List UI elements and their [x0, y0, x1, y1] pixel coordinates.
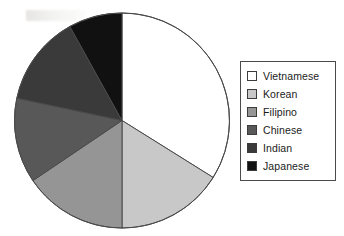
pie-chart-area	[0, 0, 240, 236]
legend-label-vietnamese: Vietnamese	[263, 70, 319, 82]
legend-swatch-vietnamese	[247, 71, 257, 81]
pie-svg	[0, 0, 240, 236]
legend-label-filipino: Filipino	[263, 106, 297, 118]
legend-item-chinese[interactable]: Chinese	[247, 121, 330, 139]
legend-swatch-chinese	[247, 125, 257, 135]
legend-item-korean[interactable]: Korean	[247, 85, 330, 103]
legend-item-filipino[interactable]: Filipino	[247, 103, 330, 121]
legend-label-korean: Korean	[263, 88, 297, 100]
pie-slice-group	[15, 13, 230, 228]
legend-item-indian[interactable]: Indian	[247, 139, 330, 157]
legend-item-vietnamese[interactable]: Vietnamese	[247, 67, 330, 85]
legend-label-japanese: Japanese	[263, 160, 309, 172]
legend-swatch-korean	[247, 89, 257, 99]
legend-label-indian: Indian	[263, 142, 292, 154]
legend-swatch-japanese	[247, 161, 257, 171]
legend-swatch-indian	[247, 143, 257, 153]
legend-item-japanese[interactable]: Japanese	[247, 157, 330, 175]
legend-label-chinese: Chinese	[263, 124, 302, 136]
legend: Vietnamese Korean Filipino Chinese India…	[240, 61, 336, 181]
legend-swatch-filipino	[247, 107, 257, 117]
pie-chart-figure: Vietnamese Korean Filipino Chinese India…	[0, 0, 344, 236]
